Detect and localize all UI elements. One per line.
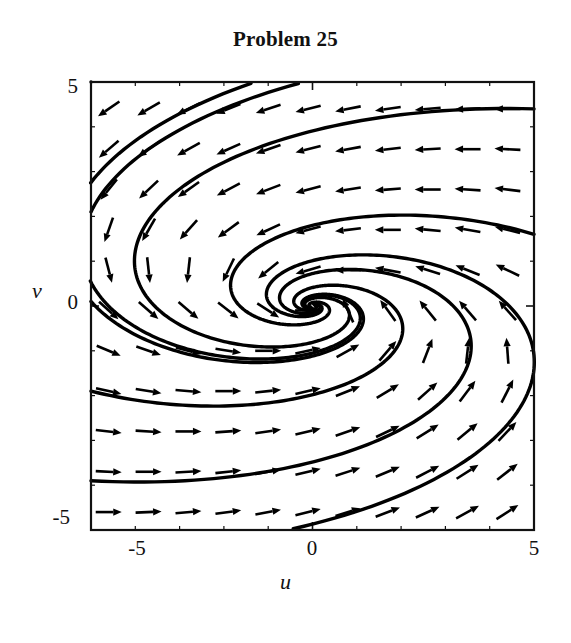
plot-canvas: [0, 0, 571, 643]
phase-portrait-figure: Problem 25 v u 5 0 -5 -5 0 5: [0, 0, 571, 643]
